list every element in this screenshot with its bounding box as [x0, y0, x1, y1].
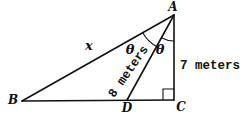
side-ba-line — [22, 15, 174, 101]
vertex-label-b: B — [8, 94, 18, 106]
angle-arc-bad — [143, 33, 157, 47]
angle-label-theta-right: θ — [156, 43, 165, 56]
side-bc-line — [22, 100, 174, 101]
side-label-ac-7-meters: 7 meters — [180, 60, 240, 73]
vertex-label-d: D — [122, 102, 132, 114]
vertex-label-c: C — [176, 101, 186, 113]
geometry-diagram: A B C D x θ θ 8 meters 7 meters — [0, 0, 244, 126]
right-angle-marker — [163, 89, 174, 100]
vertex-label-a: A — [168, 1, 177, 13]
side-label-x: x — [85, 39, 93, 52]
